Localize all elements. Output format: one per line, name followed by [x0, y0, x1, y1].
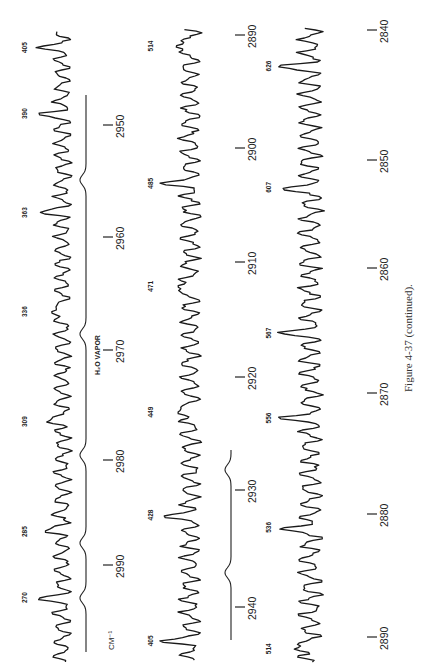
- peak-label: 514: [147, 40, 154, 51]
- axis-tick-label: 2980: [114, 449, 126, 473]
- peak-label: 556: [265, 412, 272, 423]
- axis-tick-label: 2910: [246, 251, 258, 275]
- peak-label: 607: [265, 182, 272, 193]
- figure-caption: Figure 4-37 (continued).: [402, 284, 415, 392]
- peak-label: 309: [21, 416, 28, 427]
- peak-label: 485: [147, 177, 154, 188]
- axis-tick-label: 2870: [378, 382, 390, 406]
- unit-label: CM⁻¹: [107, 631, 116, 650]
- h2o-vapor-annotation: H₂O VAPOR: [94, 335, 101, 375]
- axis-tick-label: 2880: [378, 503, 390, 527]
- axis-tick-label: 2990: [114, 554, 126, 578]
- axis-tick-label: 2890: [378, 626, 390, 650]
- spectrum-trace: [160, 30, 202, 660]
- peak-label: 536: [265, 522, 272, 533]
- peak-label: 567: [265, 327, 272, 338]
- axis-tick-label: 2950: [114, 114, 126, 138]
- axis-tick-label: 2940: [246, 596, 258, 620]
- spectrum-figure: 2990298029702960295027028530933636339040…: [0, 0, 429, 669]
- axis-tick-label: 2930: [246, 479, 258, 503]
- spectrum-strip-2: 2940293029202910290028904054284494714855…: [147, 24, 258, 660]
- peak-label: 336: [21, 306, 28, 317]
- spectrum-plot: 2990298029702960295027028530933636339040…: [0, 0, 429, 669]
- peak-label: 428: [147, 509, 154, 520]
- peak-label: 390: [21, 108, 28, 119]
- peak-label: 626: [265, 60, 272, 71]
- axis-tick-label: 2920: [246, 366, 258, 390]
- axis-tick-label: 2960: [114, 226, 126, 250]
- peak-label: 405: [147, 635, 154, 646]
- spectrum-strip-3: 2890288028702860285028405145365565676076…: [265, 19, 390, 662]
- reference-trace: [80, 95, 86, 652]
- axis-tick-label: 2900: [246, 137, 258, 161]
- axis-tick-label: 2860: [378, 257, 390, 281]
- axis-tick-label: 2840: [378, 19, 390, 43]
- peak-label: 449: [147, 406, 154, 417]
- peak-label: 270: [21, 592, 28, 603]
- peak-label: 405: [21, 42, 28, 53]
- spectrum-trace: [278, 28, 325, 662]
- spectrum-strip-1: 2990298029702960295027028530933636339040…: [21, 32, 126, 662]
- peak-label: 471: [147, 280, 154, 291]
- peak-label: 514: [265, 643, 272, 654]
- reference-trace: [225, 450, 231, 640]
- axis-tick-label: 2850: [378, 149, 390, 173]
- axis-tick-label: 2970: [114, 339, 126, 363]
- peak-label: 363: [21, 207, 28, 218]
- axis-tick-label: 2890: [246, 24, 258, 48]
- spectrum-trace: [36, 32, 72, 662]
- peak-label: 285: [21, 526, 28, 537]
